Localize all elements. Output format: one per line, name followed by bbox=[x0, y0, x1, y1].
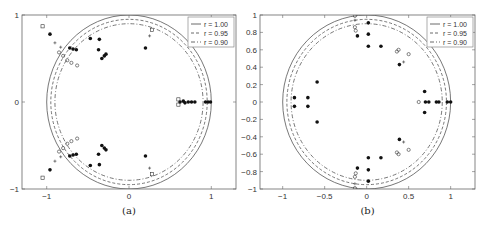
point-filled bbox=[379, 45, 383, 49]
point-open-circle bbox=[70, 140, 73, 143]
point-square bbox=[150, 28, 153, 31]
y-tick-label: −0.8 bbox=[241, 168, 257, 177]
point-filled bbox=[306, 96, 310, 100]
point-filled bbox=[144, 46, 148, 50]
point-open-circle bbox=[57, 51, 60, 54]
point-open-circle bbox=[76, 137, 79, 140]
point-filled bbox=[367, 45, 371, 49]
y-tick-label: 0.2 bbox=[246, 81, 258, 90]
point-square bbox=[41, 25, 44, 28]
y-tick-label: 0.6 bbox=[246, 46, 258, 55]
point-open-circle bbox=[76, 64, 79, 67]
subplot-caption: (a) bbox=[122, 205, 136, 216]
y-tick-label: 0.4 bbox=[246, 63, 258, 72]
point-plus bbox=[402, 141, 405, 144]
point-filled bbox=[293, 96, 297, 100]
point-filled bbox=[449, 100, 453, 104]
point-open-circle bbox=[353, 26, 356, 29]
point-filled bbox=[293, 105, 297, 109]
point-filled bbox=[356, 166, 360, 170]
point-filled bbox=[356, 34, 360, 38]
point-filled bbox=[437, 100, 441, 104]
point-filled bbox=[144, 154, 148, 158]
point-filled bbox=[68, 154, 72, 158]
x-tick-label: 0 bbox=[127, 192, 132, 201]
legend-label: r = 0.90 bbox=[204, 39, 228, 46]
x-tick-label: 1 bbox=[209, 192, 214, 201]
point-filled bbox=[306, 105, 310, 109]
subplot-caption: (b) bbox=[360, 205, 374, 216]
point-filled bbox=[398, 63, 402, 67]
y-tick-label: −0.2 bbox=[241, 115, 257, 124]
y-tick-label: 0 bbox=[15, 98, 20, 107]
point-plus bbox=[53, 41, 56, 44]
legend-label: r = 0.95 bbox=[443, 30, 467, 37]
point-filled bbox=[75, 48, 79, 52]
point-filled bbox=[445, 100, 449, 104]
point-filled bbox=[89, 164, 93, 168]
point-filled bbox=[183, 101, 187, 105]
point-filled bbox=[367, 168, 371, 172]
x-tick-label: −1 bbox=[278, 192, 288, 201]
point-filled bbox=[68, 46, 72, 50]
y-tick-label: 1 bbox=[15, 11, 20, 20]
point-filled bbox=[379, 156, 383, 160]
legend-label: r = 1.00 bbox=[443, 21, 467, 28]
circle-r-0.9 bbox=[291, 24, 442, 181]
point-filled bbox=[98, 163, 102, 167]
point-open-circle bbox=[407, 53, 410, 56]
point-filled bbox=[367, 21, 371, 25]
data-points bbox=[41, 25, 212, 180]
point-plus bbox=[148, 167, 151, 170]
subplot-a: −101−101r = 1.00r = 0.95r = 0.90(a) bbox=[10, 11, 236, 216]
point-filled bbox=[315, 80, 319, 84]
point-filled bbox=[98, 38, 102, 42]
legend: r = 1.00r = 0.95r = 0.90 bbox=[188, 17, 234, 47]
point-filled bbox=[100, 144, 104, 148]
legend-label: r = 1.00 bbox=[204, 21, 228, 28]
y-tick-label: 0 bbox=[253, 98, 258, 107]
point-filled bbox=[367, 156, 371, 160]
point-filled bbox=[367, 179, 371, 183]
point-filled bbox=[398, 138, 402, 142]
point-plus bbox=[53, 160, 56, 163]
point-filled bbox=[100, 57, 104, 61]
point-open-circle bbox=[353, 175, 356, 178]
legend-label: r = 0.95 bbox=[204, 30, 228, 37]
y-tick-label: −1 bbox=[10, 185, 20, 194]
point-filled bbox=[315, 120, 319, 124]
x-tick-label: −0.5 bbox=[317, 192, 333, 201]
y-tick-label: −0.4 bbox=[241, 133, 257, 142]
point-filled bbox=[367, 32, 371, 36]
point-filled bbox=[209, 100, 213, 104]
point-plus bbox=[353, 19, 356, 22]
legend: r = 1.00r = 0.95r = 0.90 bbox=[427, 17, 473, 47]
y-tick-label: 1 bbox=[253, 11, 258, 20]
point-filled bbox=[104, 148, 108, 152]
point-filled bbox=[75, 152, 79, 156]
point-open-circle bbox=[57, 150, 60, 153]
point-plus bbox=[353, 182, 356, 185]
point-filled bbox=[71, 153, 75, 157]
y-tick-label: 0.8 bbox=[246, 28, 258, 37]
point-open-circle bbox=[354, 29, 357, 32]
point-plus bbox=[148, 34, 151, 37]
point-filled bbox=[71, 47, 75, 51]
x-tick-label: −1 bbox=[42, 192, 52, 201]
circle-r-0.95 bbox=[287, 19, 447, 184]
point-open-circle bbox=[354, 172, 357, 175]
point-filled bbox=[97, 48, 101, 52]
point-filled bbox=[427, 100, 431, 104]
point-filled bbox=[193, 100, 197, 104]
point-filled bbox=[423, 111, 427, 115]
point-open-circle bbox=[70, 61, 73, 64]
point-filled bbox=[89, 37, 93, 41]
point-filled bbox=[424, 100, 428, 104]
point-plus bbox=[59, 46, 62, 49]
subplot-b: −1−0.500.51−1−0.8−0.6−0.4−0.200.20.40.60… bbox=[241, 11, 475, 216]
point-filled bbox=[190, 100, 194, 104]
point-open-circle bbox=[407, 148, 410, 151]
point-filled bbox=[186, 100, 190, 104]
x-tick-label: 0 bbox=[364, 192, 369, 201]
point-plus bbox=[402, 60, 405, 63]
